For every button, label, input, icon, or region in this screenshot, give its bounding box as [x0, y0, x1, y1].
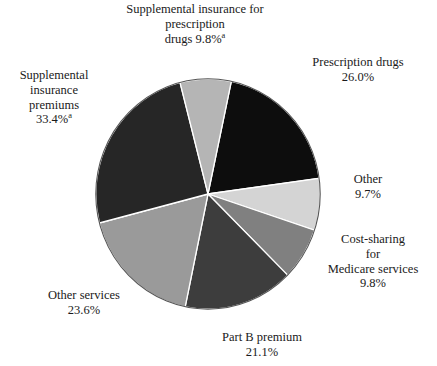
label-value: 9.7%: [318, 187, 418, 202]
label-value: 21.1%: [192, 345, 332, 360]
label-line: Medicare services: [310, 262, 436, 277]
label-value: 26.0%: [283, 70, 433, 85]
label-value: drugs 9.8%: [165, 32, 222, 46]
footnote-marker: a: [68, 111, 72, 120]
label-line: Other: [318, 172, 418, 187]
pie-chart-graphic: [95, 78, 321, 310]
pie-chart-figure: Supplemental insurance for prescription …: [0, 0, 437, 366]
slice-label-supplemental-insurance-premiums: Supplemental insurance premiums 33.4%a: [2, 68, 106, 127]
slice-label-supplemental-insurance-prescription-drugs: Supplemental insurance for prescription …: [105, 2, 285, 46]
label-value: 9.8%: [310, 276, 436, 291]
label-line: 33.4%a: [2, 112, 106, 127]
pie-svg: [95, 78, 321, 310]
label-line: Part B premium: [192, 330, 332, 345]
label-line: Supplemental insurance for: [105, 2, 285, 17]
slice-label-part-b-premium: Part B premium 21.1%: [192, 330, 332, 360]
label-line: Supplemental: [2, 68, 106, 83]
label-line: prescription: [105, 17, 285, 32]
slice-label-cost-sharing-medicare-services: Cost-sharing for Medicare services 9.8%: [310, 232, 436, 291]
label-line: drugs 9.8%a: [105, 32, 285, 47]
label-value: 23.6%: [18, 303, 150, 318]
slice-label-other: Other 9.7%: [318, 172, 418, 202]
label-line: premiums: [2, 98, 106, 113]
label-line: insurance: [2, 83, 106, 98]
pie-slice-group: [96, 79, 320, 309]
footnote-marker: a: [222, 30, 226, 39]
label-line: for: [310, 247, 436, 262]
slice-label-prescription-drugs: Prescription drugs 26.0%: [283, 55, 433, 85]
slice-label-other-services: Other services 23.6%: [18, 288, 150, 318]
label-value: 33.4%: [36, 112, 68, 126]
label-line: Prescription drugs: [283, 55, 433, 70]
label-line: Cost-sharing: [310, 232, 436, 247]
label-line: Other services: [18, 288, 150, 303]
